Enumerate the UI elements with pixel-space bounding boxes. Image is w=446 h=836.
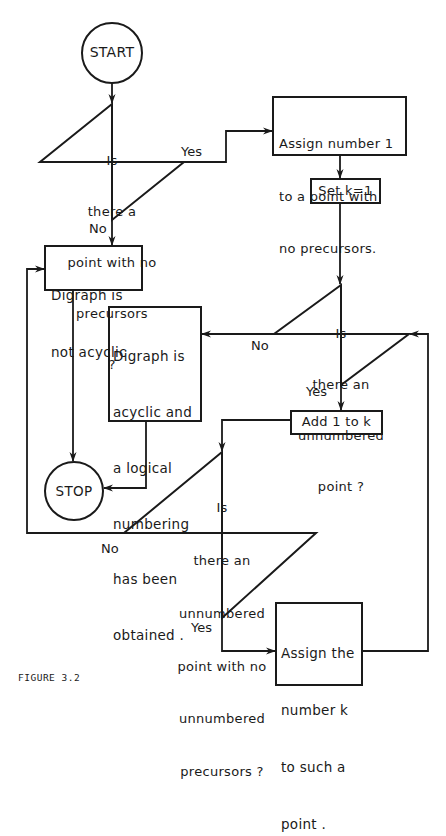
- assign1-line: no precursors.: [279, 240, 393, 258]
- assignk-line: Assign the: [281, 644, 355, 663]
- decision2-line: Is: [286, 325, 396, 342]
- assignk-line: point .: [281, 815, 355, 834]
- decision3-line: unnumbered: [152, 605, 292, 623]
- decision3-text: Is there an unnumbered point with no unn…: [152, 464, 292, 798]
- acyclic-line: acyclic and: [113, 403, 192, 422]
- decision2-line: point ?: [286, 478, 396, 495]
- decision3-line: there an: [152, 552, 292, 570]
- edge-addk-d3: [222, 420, 291, 451]
- edge-label-d1-yes: Yes: [181, 144, 202, 159]
- assign1-line: Assign number 1: [279, 135, 393, 153]
- edge-label-d3-no: No: [101, 541, 119, 556]
- assignk-line: to such a: [281, 758, 355, 777]
- setk-label: Set k=1: [311, 182, 380, 201]
- decision3-line: Is: [152, 499, 292, 517]
- assignk-text: Assign the number k to such a point .: [281, 606, 355, 836]
- decision3-line: precursors ?: [152, 763, 292, 781]
- figure-caption: FIGURE 3.2: [18, 672, 80, 683]
- edge-label-d3-yes: Yes: [191, 620, 212, 635]
- decision1-line: there a: [52, 203, 172, 220]
- decision3-line: unnumbered: [152, 710, 292, 728]
- assignk-line: number k: [281, 701, 355, 720]
- edge-label-d2-yes: Yes: [306, 384, 327, 399]
- acyclic-line: Digraph is: [113, 347, 192, 366]
- stop-label: STOP: [44, 482, 104, 501]
- edge-label-d2-no: No: [251, 338, 269, 353]
- addk-label: Add 1 to k: [291, 413, 382, 432]
- start-label: START: [82, 43, 142, 62]
- decision3-line: point with no: [152, 658, 292, 676]
- decision1-line: Is: [52, 152, 172, 169]
- decision2-line: there an: [286, 376, 396, 393]
- edge-label-d1-no: No: [89, 221, 107, 236]
- not-acyclic-line: Digraph is: [51, 286, 127, 305]
- decision2-text: Is there an unnumbered point ?: [286, 291, 396, 512]
